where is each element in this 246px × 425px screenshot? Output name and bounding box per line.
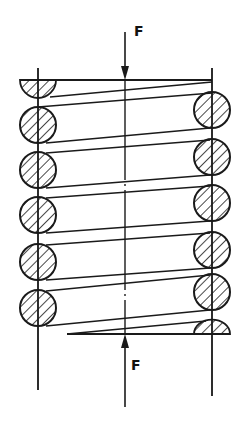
force-label-bottom: F [131,358,141,372]
coil-line [67,321,206,334]
coil-line [46,221,210,233]
force-label-top: F [134,24,144,38]
arrow-up-icon [121,334,129,348]
arrow-down-icon [121,66,129,80]
coil-line [46,186,210,198]
spring-geometry [20,32,230,407]
spring-diagram [0,0,246,425]
coil-line [46,140,210,153]
coil-line [46,175,210,188]
coil-line [46,128,210,143]
coil-line [46,233,210,245]
